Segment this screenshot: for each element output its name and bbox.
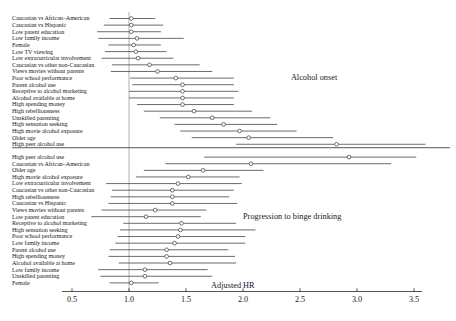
point-estimate-marker	[201, 168, 205, 172]
row-label: Views movies without parents	[12, 207, 84, 213]
row-label: Poor school performance	[12, 233, 72, 239]
forest-row	[110, 281, 159, 285]
x-tick-label: 3.5	[409, 295, 419, 304]
row-label: Low family income	[12, 267, 59, 273]
forest-row	[91, 215, 200, 219]
row-label: Receptive to alcohol marketing	[12, 220, 87, 226]
row-label: Low parent education	[12, 29, 64, 35]
point-estimate-marker	[247, 136, 251, 140]
row-label: High rebelliousness	[12, 108, 59, 114]
row-label: High spending money	[12, 101, 65, 107]
row-label: Views movies without parents	[12, 68, 84, 74]
x-tick-label: 0.5	[67, 295, 77, 304]
forest-row	[101, 274, 213, 278]
row-label: Unskilled parenting	[12, 273, 59, 279]
point-estimate-marker	[143, 268, 147, 272]
x-axis-title: Adjusted HR	[211, 281, 255, 290]
forest-row	[165, 162, 391, 166]
point-estimate-marker	[176, 235, 180, 239]
x-tick-label: 3.0	[352, 295, 362, 304]
row-label: Caucasian vs Hispanic	[12, 200, 66, 206]
forest-row	[119, 261, 236, 265]
forest-row	[115, 241, 245, 245]
row-label: Low extracurricular involvement	[12, 180, 91, 186]
point-estimate-marker	[129, 281, 133, 285]
point-estimate-marker	[165, 248, 169, 252]
point-estimate-marker	[347, 155, 351, 159]
point-estimate-marker	[192, 109, 196, 113]
forest-row	[106, 182, 242, 186]
row-label: Low TV viewing	[12, 49, 53, 55]
x-tick-label: 2.5	[295, 295, 305, 304]
forest-row	[108, 255, 235, 259]
forest-row	[129, 89, 238, 93]
row-label: Caucasian vs other non-Caucasian	[12, 62, 94, 68]
forest-row	[104, 23, 163, 27]
forest-row	[132, 83, 233, 87]
row-label: Poor school performance	[12, 75, 72, 81]
x-tick-label: 1.5	[181, 295, 191, 304]
row-label: Alcohol available at home	[12, 260, 75, 266]
row-label: High peer alcohol use	[12, 141, 64, 147]
point-estimate-marker	[186, 175, 190, 179]
row-label: High sensation seeking	[12, 121, 67, 127]
forest-row	[236, 142, 425, 146]
point-estimate-marker	[180, 221, 184, 225]
point-estimate-marker	[176, 182, 180, 186]
forest-row	[175, 123, 278, 127]
row-label: Caucasian vs African–American	[12, 161, 89, 167]
row-label: Female	[12, 42, 30, 48]
point-estimate-marker	[135, 37, 139, 41]
forest-row	[120, 228, 256, 232]
forest-row	[110, 17, 156, 21]
forest-row	[102, 208, 207, 212]
point-estimate-marker	[173, 241, 177, 245]
forest-row	[108, 43, 160, 47]
row-label: Receptive to alcohol marketing	[12, 88, 87, 94]
point-estimate-marker	[181, 96, 185, 100]
forest-row	[112, 188, 234, 192]
row-label: Low extracurricular involvement	[12, 55, 91, 61]
row-label: High spending money	[12, 253, 65, 259]
point-estimate-marker	[129, 30, 133, 34]
point-estimate-marker	[153, 208, 157, 212]
point-estimate-marker	[129, 23, 133, 27]
forest-row	[102, 56, 174, 60]
row-label: Caucasian vs African–American	[12, 15, 89, 21]
point-estimate-marker	[136, 56, 140, 60]
row-label: Unskilled parenting	[12, 115, 59, 121]
point-estimate-marker	[178, 228, 182, 232]
point-estimate-marker	[222, 123, 226, 127]
point-estimate-marker	[181, 89, 185, 93]
forest-row	[180, 129, 296, 133]
forest-plot: Caucasian vs African–AmericanCaucasian v…	[0, 0, 456, 321]
forest-row	[118, 235, 246, 239]
point-estimate-marker	[181, 83, 185, 87]
point-estimate-marker	[148, 63, 152, 67]
forest-row	[129, 96, 234, 100]
point-estimate-marker	[249, 162, 253, 166]
row-label: Low family income	[12, 240, 59, 246]
point-estimate-marker	[165, 255, 169, 259]
panel-label-progression-binge: Progression to binge drinking	[243, 212, 341, 221]
row-label: Low parent education	[12, 214, 64, 220]
point-estimate-marker	[335, 142, 339, 146]
point-estimate-marker	[134, 50, 138, 54]
forest-row	[98, 268, 207, 272]
forest-row	[130, 76, 234, 80]
point-estimate-marker	[170, 202, 174, 206]
row-label: Older age	[12, 167, 35, 173]
point-estimate-marker	[181, 103, 185, 107]
forest-row	[123, 221, 236, 225]
point-estimate-marker	[210, 116, 214, 120]
forest-row	[160, 116, 271, 120]
x-tick-label: 2.0	[238, 295, 248, 304]
row-label: Low family income	[12, 35, 59, 41]
row-label: High movie alcohol exposure	[12, 128, 83, 134]
forest-row	[192, 136, 333, 140]
row-label: High sensation seeking	[12, 227, 67, 233]
row-label: Alcohol available at home	[12, 95, 75, 101]
row-label: Parent alcohol use	[12, 82, 56, 88]
forest-row	[111, 195, 230, 199]
panel-label-alcohol-onset: Alcohol onset	[291, 73, 337, 82]
